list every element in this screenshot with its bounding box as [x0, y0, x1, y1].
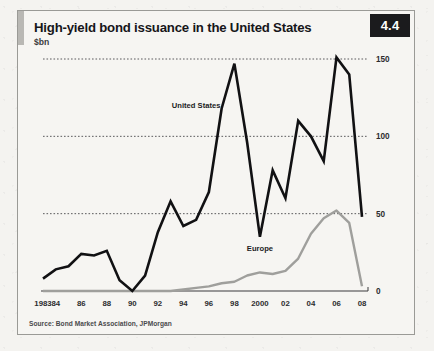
x-axis-tick-label: 86 — [77, 299, 86, 308]
y-axis-tick-label: 0 — [376, 287, 381, 296]
series-label-united-states: United States — [172, 101, 221, 110]
x-axis-tick-label: 92 — [153, 299, 162, 308]
x-axis-tick-label: 88 — [102, 299, 111, 308]
plot-area: 0501001501983848688909294969820000204060… — [18, 11, 416, 336]
x-axis-tick-label: 04 — [307, 299, 316, 308]
x-axis-tick-label: 2000 — [251, 299, 269, 308]
x-axis-tick-label: 90 — [128, 299, 137, 308]
x-axis-tick-label: 98 — [230, 299, 239, 308]
source-note: Source: Bond Market Association, JPMorga… — [29, 320, 172, 327]
x-axis-tick-label: 02 — [281, 299, 290, 308]
y-axis-tick-label: 50 — [376, 210, 386, 219]
y-axis-tick-label: 100 — [376, 132, 390, 141]
series-line-europe — [43, 211, 362, 291]
x-axis-tick-label: 06 — [332, 299, 341, 308]
x-axis-tick-label: 84 — [51, 299, 60, 308]
x-axis-tick-label: 94 — [179, 299, 188, 308]
figure-panel: High-yield bond issuance in the United S… — [17, 10, 415, 335]
page-background: High-yield bond issuance in the United S… — [0, 0, 434, 351]
series-label-europe: Europe — [247, 244, 273, 253]
line-chart: 0501001501983848688909294969820000204060… — [18, 11, 416, 336]
x-axis-tick-label: 96 — [205, 299, 214, 308]
series-line-united-states — [43, 57, 362, 291]
x-axis-tick-label: 08 — [358, 299, 367, 308]
y-axis-tick-label: 150 — [376, 55, 390, 64]
x-axis-tick-label: 1983 — [34, 299, 52, 308]
